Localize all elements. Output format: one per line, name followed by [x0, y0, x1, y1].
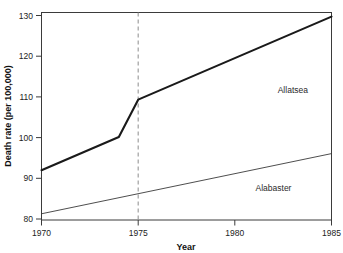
y-tick-label-90: 90: [24, 173, 34, 183]
y-axis-ticks: [36, 16, 42, 220]
chart-figure: 130 120 110 100 90 80 1970 1975 1980 198…: [0, 0, 343, 253]
x-axis-title: Year: [176, 242, 196, 252]
y-tick-label-120: 120: [19, 51, 33, 61]
x-axis-ticks: [42, 220, 332, 226]
x-tick-label-1985: 1985: [322, 228, 341, 238]
y-tick-label-110: 110: [19, 92, 33, 102]
y-tick-label-100: 100: [19, 133, 33, 143]
x-tick-label-1980: 1980: [225, 228, 244, 238]
x-tick-label-1970: 1970: [32, 228, 51, 238]
series-label-alabaster: Alabaster: [256, 183, 292, 193]
y-tick-label-80: 80: [24, 214, 34, 224]
x-axis-tick-labels: 1970 1975 1980 1985: [32, 228, 341, 238]
line-chart-canvas: 130 120 110 100 90 80 1970 1975 1980 198…: [0, 0, 343, 253]
y-axis-title: Death rate (per 100,000): [3, 65, 13, 167]
x-tick-label-1975: 1975: [129, 228, 148, 238]
series-label-allatsea: Allatsea: [278, 85, 309, 95]
y-tick-label-130: 130: [19, 11, 33, 21]
y-axis-tick-labels: 130 120 110 100 90 80: [19, 11, 33, 225]
